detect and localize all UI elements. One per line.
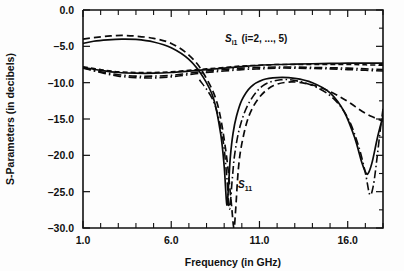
x-tick-label: 11.0 [250, 234, 270, 246]
si1-range: (i=2, ..., 5) [242, 33, 288, 44]
s11-subscript: 11 [245, 185, 253, 192]
x-tick-label: 1.0 [76, 234, 91, 246]
y-tick-label: –5.0 [54, 40, 75, 52]
y-tick-label: 0.0 [59, 4, 74, 16]
x-tick-label: 16.0 [337, 234, 358, 246]
x-tick-label: 6.0 [164, 234, 179, 246]
y-tick-label: –15.0 [48, 113, 74, 125]
chart-figure: 0.0–5.0–10.0–15.0–20.0–25.0–30.0 1.06.01… [0, 0, 404, 271]
s-parameters-line-chart: 0.0–5.0–10.0–15.0–20.0–25.0–30.0 1.06.01… [0, 0, 404, 271]
y-tick-label: –30.0 [48, 222, 74, 234]
y-tick-label: –20.0 [48, 149, 74, 161]
y-tick-label: –25.0 [48, 186, 74, 198]
y-axis-title: S-Parameters (in decibels) [4, 53, 16, 185]
x-axis-title: Frequency (in GHz) [185, 256, 281, 268]
si1-subscript: i1 [232, 39, 238, 46]
y-tick-label: –10.0 [48, 77, 74, 89]
